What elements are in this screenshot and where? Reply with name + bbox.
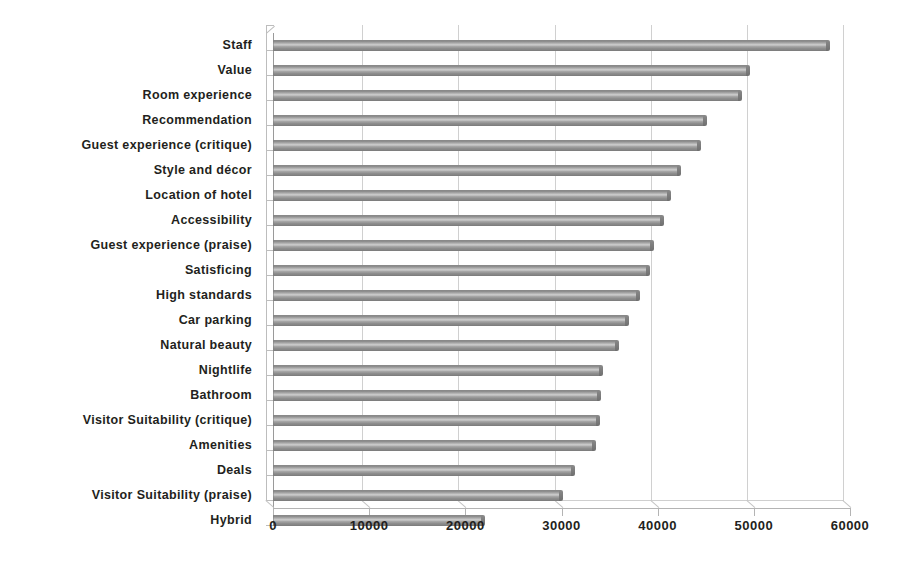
bar [273,215,661,226]
bar [273,140,698,151]
y-axis-label: Deals [0,458,262,483]
bar-row [273,358,873,383]
bar-row [273,158,873,183]
bar-end-cap [703,115,707,126]
bar [273,465,572,476]
bar-end-cap [636,290,640,301]
bar-end-cap [596,415,600,426]
y-axis-label: Guest experience (praise) [0,233,262,258]
bar [273,115,704,126]
bar [273,440,593,451]
y-axis-label: Value [0,58,262,83]
y-axis-label: High standards [0,283,262,308]
bar [273,40,827,51]
bar [273,415,597,426]
bar-end-cap [615,340,619,351]
bar-row [273,433,873,458]
bar-end-cap [677,165,681,176]
bar-end-cap [660,215,664,226]
y-axis-label: Recommendation [0,108,262,133]
x-axis-tick-label: 40000 [638,518,677,533]
bar-row [273,58,873,83]
bar-row [273,458,873,483]
bar-end-cap [571,465,575,476]
bar-row [273,233,873,258]
bar [273,290,637,301]
bar-row [273,258,873,283]
bar-row [273,333,873,358]
y-axis-label: Location of hotel [0,183,262,208]
bar-row [273,33,873,58]
x-axis-tick-label: 20000 [446,518,485,533]
bar-row [273,408,873,433]
y-axis-label: Room experience [0,83,262,108]
bar [273,340,616,351]
y-axis-label: Nightlife [0,358,262,383]
bar-end-cap [746,65,750,76]
bar-end-cap [738,90,742,101]
bar [273,265,647,276]
bar-row [273,308,873,333]
y-axis-label: Accessibility [0,208,262,233]
y-axis-label: Style and décor [0,158,262,183]
x-axis-tick-label: 30000 [542,518,581,533]
bar-end-cap [697,140,701,151]
bar [273,365,600,376]
y-axis-tick [266,25,274,26]
bar-end-cap [559,490,563,501]
y-axis-label: Bathroom [0,383,262,408]
bar-end-cap [667,190,671,201]
y-axis-label: Satisficing [0,258,262,283]
y-axis-label: Car parking [0,308,262,333]
bar [273,240,651,251]
bar-end-cap [625,315,629,326]
bar [273,90,739,101]
bar-end-cap [646,265,650,276]
bar [273,165,678,176]
bar-row [273,108,873,133]
x-axis-tick-label: 10000 [350,518,389,533]
bar [273,490,560,501]
bar-end-cap [597,390,601,401]
bar-row [273,83,873,108]
bar [273,315,626,326]
y-axis-label: Visitor Suitability (critique) [0,408,262,433]
y-axis-label: Guest experience (critique) [0,133,262,158]
bar [273,190,668,201]
bar-row [273,208,873,233]
x-axis-tick-label: 60000 [831,518,870,533]
bar-row [273,283,873,308]
x-axis-tick-labels: 0100002000030000400005000060000 [0,518,903,540]
bar-row [273,383,873,408]
y-axis-label: Amenities [0,433,262,458]
bar-end-cap [650,240,654,251]
bar [273,65,747,76]
plot-area: StaffValueRoom experienceRecommendationG… [0,0,903,566]
x-axis-tick-label: 50000 [735,518,774,533]
bar-row [273,483,873,508]
bar-end-cap [592,440,596,451]
bar-row [273,183,873,208]
bar-end-cap [826,40,830,51]
y-axis-label: Natural beauty [0,333,262,358]
x-axis-tick-label: 0 [269,518,277,533]
y-axis-label: Visitor Suitability (praise) [0,483,262,508]
bar-series-mentions [273,33,873,508]
bar-end-cap [599,365,603,376]
y-axis-label: Staff [0,33,262,58]
bar-row [273,133,873,158]
bar [273,390,598,401]
y-axis-category-labels: StaffValueRoom experienceRecommendationG… [0,33,262,533]
y-axis-back-line [266,25,267,500]
bar-chart: StaffValueRoom experienceRecommendationG… [0,0,903,566]
